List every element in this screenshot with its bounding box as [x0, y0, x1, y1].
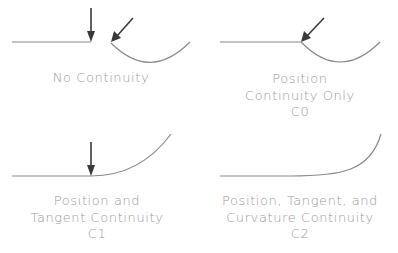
smooth-blend-curve: [220, 134, 381, 176]
tangent-arc-segment: [91, 134, 171, 176]
label-c0: Position Continuity Only C0: [245, 71, 355, 121]
label-no-continuity: No Continuity: [53, 70, 149, 87]
vertical-arrow-icon: [87, 142, 95, 176]
arc-segment: [111, 42, 190, 62]
label-line: C0: [245, 104, 355, 121]
vertical-arrow-icon: [87, 8, 95, 42]
label-c1: Position and Tangent Continuity C1: [31, 193, 164, 243]
arc-segment: [301, 42, 380, 62]
panel-no-continuity: [12, 8, 190, 62]
label-line: Curvature Continuity: [222, 210, 378, 227]
panel-c0: [220, 18, 380, 62]
label-line: C1: [31, 226, 164, 243]
label-line: Position: [245, 71, 355, 88]
panel-c2: [220, 134, 381, 176]
label-line: Continuity Only: [245, 88, 355, 105]
label-c2: Position, Tangent, and Curvature Continu…: [222, 193, 378, 243]
label-line: Tangent Continuity: [31, 210, 164, 227]
label-line: C2: [222, 226, 378, 243]
panel-c1: [12, 134, 171, 176]
label-line: Position and: [31, 193, 164, 210]
label-line: No Continuity: [53, 70, 149, 87]
label-line: Position, Tangent, and: [222, 193, 378, 210]
diagonal-arrow-icon: [111, 18, 133, 42]
diagonal-arrow-icon: [301, 18, 324, 42]
